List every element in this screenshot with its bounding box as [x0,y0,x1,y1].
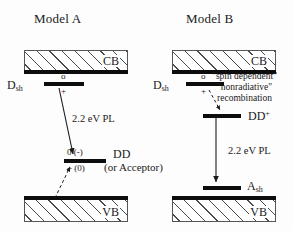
level-label-ddplus-b: DD+ [248,110,270,123]
panel-title-model-a: Model A [34,12,81,26]
panel-title-model-b: Model B [186,12,233,26]
energy-level-ddplus-b [203,114,241,118]
level-subscript-sh-b2: sh [256,185,263,194]
conduction-band-label-a: CB [102,55,120,67]
level-label-ash-b: Ash [247,180,263,195]
charge-state-dd-lower-a: + (0) [67,164,85,173]
charge-state-dsh-upper-b: o [201,72,206,81]
charge-state-dsh-lower-b: + [201,87,206,96]
transition-label-pl-b: 2.2 eV PL [228,145,271,156]
valence-band-model-a: VB [24,198,128,222]
arrow-pl-transition-model-a [59,88,73,154]
level-superscript-plus-b: + [265,109,270,118]
charge-state-dsh-lower-a: + [61,87,66,96]
level-label-dsh-a: Dsh [7,79,23,94]
level-label-dsh-b: Dsh [153,79,169,94]
conduction-band-label-b: CB [250,55,268,67]
charge-state-dsh-upper-a: o [61,72,66,81]
level-alt-label-dd-a: (or Acceptor) [104,162,163,174]
energy-band-diagram-figure: Model A CB Dsh o + 2.2 eV PL 0 (-) + (0)… [0,0,293,231]
annotation-line-1: "spin dependent" [212,71,277,82]
level-label-dd-a: DD [113,148,130,161]
level-name-dd-b: DD [248,109,265,123]
valence-band-label-a: VB [101,206,120,218]
valence-band-label-b: VB [249,206,268,218]
charge-state-dd-upper-a: 0 (-) [67,148,83,157]
level-subscript-sh-a: sh [16,84,23,93]
level-name-d-b: D [153,78,162,92]
level-subscript-sh-b: sh [162,84,169,93]
level-name-d-a: D [7,78,16,92]
annotation-spin-dependent-recombination: "spin dependent" "nonradiative" recombin… [212,71,277,105]
level-name-a-b: A [247,179,256,193]
transition-label-pl-a: 2.2 eV PL [72,113,115,124]
conduction-band-edge-a [24,70,128,74]
valence-band-model-b: VB [172,198,276,222]
conduction-band-model-b: CB [172,50,276,72]
valence-band-edge-a [24,196,128,200]
conduction-band-model-a: CB [24,50,128,72]
valence-band-edge-b [172,196,276,200]
annotation-line-3: recombination [212,93,277,104]
energy-level-ash-b [203,186,241,190]
annotation-line-2: "nonradiative" [212,82,277,93]
